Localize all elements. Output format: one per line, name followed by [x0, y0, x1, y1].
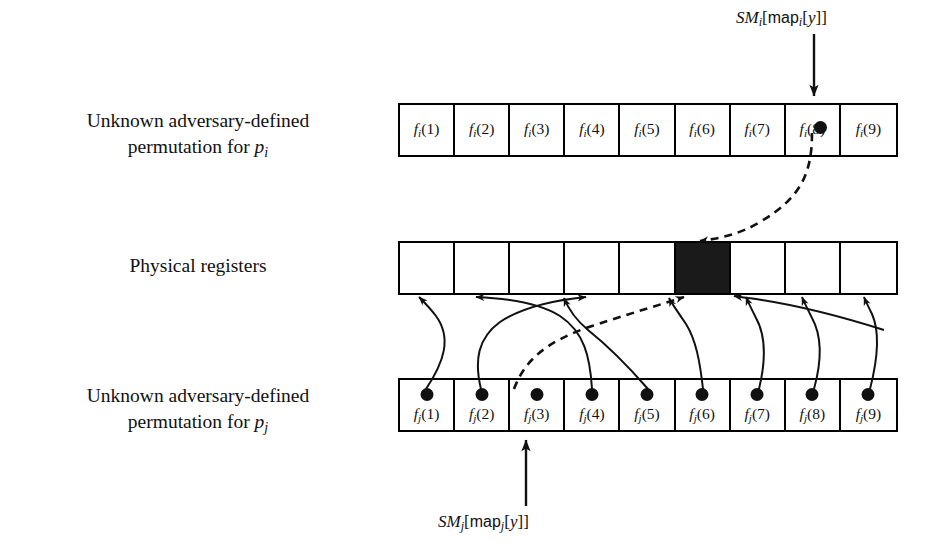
cell-label: fj(1) — [414, 405, 440, 424]
annotation-bottom: SMj[mapj[y]] — [438, 512, 529, 534]
top-row-cell-7[interactable]: fi(7) — [731, 105, 786, 155]
bottom-row-dot-2 — [475, 388, 488, 401]
bottom-row-cell-8[interactable]: fj(8) — [786, 380, 841, 430]
bottom-row-label-prefix: permutation for — [128, 411, 255, 432]
cell-label: fi(3) — [524, 120, 550, 139]
annotation-bottom-map: map — [470, 513, 501, 530]
bottom-row-dot-3 — [530, 388, 543, 401]
bottom-row-cell-5[interactable]: fj(5) — [620, 380, 675, 430]
physical-register-8[interactable] — [786, 243, 841, 293]
cell-label: fi(2) — [469, 120, 495, 139]
cell-label: fj(7) — [744, 405, 770, 424]
middle-row-label-line1: Physical registers — [24, 253, 372, 279]
dashed-arrow-bottom-to-register — [514, 297, 684, 389]
top-row-cell-1[interactable]: fi(1) — [400, 105, 455, 155]
annotation-bottom-sm: SM — [438, 512, 461, 531]
bottom-row-cell-2[interactable]: fj(2) — [455, 380, 510, 430]
bottom-row-label-line1: Unknown adversary-defined — [24, 383, 372, 409]
bottom-row-cell-9[interactable]: fj(9) — [841, 380, 896, 430]
cell-label: fj(8) — [800, 405, 826, 424]
top-permutation-row: fi(1)fi(2)fi(3)fi(4)fi(5)fi(6)fi(7)fi(8)… — [398, 103, 898, 157]
cell-label: fi(9) — [856, 120, 882, 139]
physical-register-9[interactable] — [841, 243, 896, 293]
top-row-label-sub: i — [264, 144, 268, 160]
physical-registers-row — [398, 241, 898, 295]
cell-label: fj(4) — [579, 405, 605, 424]
bottom-row-dot-1 — [420, 388, 433, 401]
bottom-row-dot-6 — [696, 388, 709, 401]
top-row-cell-9[interactable]: fi(9) — [841, 105, 896, 155]
cell-label: fi(1) — [414, 120, 440, 139]
bottom-row-cell-4[interactable]: fj(4) — [565, 380, 620, 430]
mapping-arrows — [419, 296, 884, 389]
top-row-marker-dot — [814, 121, 827, 134]
physical-register-5[interactable] — [620, 243, 675, 293]
cell-label: fi(5) — [634, 120, 660, 139]
bottom-row-cell-3[interactable]: fj(3) — [510, 380, 565, 430]
bottom-row-cell-7[interactable]: fj(7) — [731, 380, 786, 430]
annotation-bottom-bracket-close: ] — [523, 512, 529, 531]
physical-register-1[interactable] — [400, 243, 455, 293]
top-row-cell-6[interactable]: fi(6) — [676, 105, 731, 155]
top-row-label: Unknown adversary-defined permutation fo… — [24, 108, 372, 165]
top-row-label-var: p — [255, 136, 265, 157]
top-row-label-line2: permutation for pi — [24, 134, 372, 165]
top-row-cell-4[interactable]: fi(4) — [565, 105, 620, 155]
annotation-top-sm: SM — [736, 8, 759, 27]
bottom-row-dot-8 — [806, 388, 819, 401]
physical-register-7[interactable] — [731, 243, 786, 293]
annotation-top-bracket-close: ] — [821, 8, 827, 27]
bottom-row-label-sub: j — [264, 419, 268, 435]
bottom-row-dot-9 — [862, 388, 875, 401]
physical-register-highlighted[interactable] — [676, 243, 731, 293]
bottom-row-dot-5 — [640, 388, 653, 401]
cell-label: fj(2) — [469, 405, 495, 424]
top-row-label-prefix: permutation for — [128, 136, 255, 157]
bottom-row-cell-6[interactable]: fj(6) — [676, 380, 731, 430]
bottom-row-dot-7 — [751, 388, 764, 401]
physical-register-2[interactable] — [455, 243, 510, 293]
cell-label: fj(9) — [856, 405, 882, 424]
top-row-cell-8[interactable]: fi(8) — [786, 105, 841, 155]
bottom-row-label: Unknown adversary-defined permutation fo… — [24, 383, 372, 440]
top-row-label-line1: Unknown adversary-defined — [24, 108, 372, 134]
cell-label: fi(7) — [744, 120, 770, 139]
bottom-row-cell-1[interactable]: fj(1) — [400, 380, 455, 430]
bottom-row-label-line2: permutation for pj — [24, 409, 372, 440]
cell-label: fj(6) — [689, 405, 715, 424]
annotation-top-map: map — [768, 9, 799, 26]
bottom-permutation-row: fj(1)fj(2)fj(3)fj(4)fj(5)fj(6)fj(7)fj(8)… — [398, 378, 898, 432]
physical-register-4[interactable] — [565, 243, 620, 293]
top-row-cell-5[interactable]: fi(5) — [620, 105, 675, 155]
cell-label: fi(6) — [689, 120, 715, 139]
cell-label: fi(4) — [579, 120, 605, 139]
annotation-top: SMi[mapi[y]] — [736, 8, 827, 30]
cell-label: fj(3) — [524, 405, 550, 424]
top-row-cell-3[interactable]: fi(3) — [510, 105, 565, 155]
bottom-row-dot-4 — [585, 388, 598, 401]
bottom-row-label-var: p — [255, 411, 265, 432]
top-row-cell-2[interactable]: fi(2) — [455, 105, 510, 155]
figure-canvas: SMi[mapi[y]] Unknown adversary-defined p… — [0, 0, 934, 555]
cell-label: fj(5) — [634, 405, 660, 424]
middle-row-label: Physical registers — [24, 253, 372, 279]
physical-register-3[interactable] — [510, 243, 565, 293]
